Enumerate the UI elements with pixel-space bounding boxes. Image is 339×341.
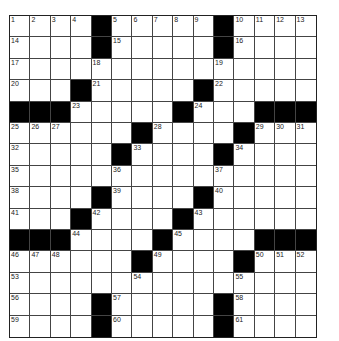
grid-cell[interactable]: [296, 144, 316, 165]
grid-cell[interactable]: [255, 166, 275, 187]
grid-cell[interactable]: [112, 251, 132, 272]
grid-cell[interactable]: [30, 37, 50, 58]
grid-cell[interactable]: [30, 59, 50, 80]
grid-cell[interactable]: [173, 144, 193, 165]
grid-cell[interactable]: [173, 294, 193, 315]
grid-cell[interactable]: [255, 316, 275, 337]
grid-cell[interactable]: [255, 209, 275, 230]
grid-cell[interactable]: [51, 209, 71, 230]
grid-cell[interactable]: [71, 273, 91, 294]
grid-cell[interactable]: 22: [214, 80, 234, 101]
grid-cell[interactable]: [194, 144, 214, 165]
grid-cell[interactable]: [92, 251, 112, 272]
grid-cell[interactable]: [51, 80, 71, 101]
grid-cell[interactable]: [132, 187, 152, 208]
grid-cell[interactable]: 16: [234, 37, 254, 58]
grid-cell[interactable]: 51: [275, 251, 295, 272]
grid-cell[interactable]: 56: [10, 294, 30, 315]
grid-cell[interactable]: 37: [214, 166, 234, 187]
grid-cell[interactable]: 46: [10, 251, 30, 272]
grid-cell[interactable]: [214, 102, 234, 123]
grid-cell[interactable]: [92, 144, 112, 165]
grid-cell[interactable]: [255, 144, 275, 165]
grid-cell[interactable]: [194, 273, 214, 294]
grid-cell[interactable]: 2: [30, 16, 50, 37]
grid-cell[interactable]: 49: [153, 251, 173, 272]
grid-cell[interactable]: [255, 273, 275, 294]
grid-cell[interactable]: [132, 59, 152, 80]
grid-cell[interactable]: [153, 59, 173, 80]
grid-cell[interactable]: [112, 80, 132, 101]
grid-cell[interactable]: 25: [10, 123, 30, 144]
grid-cell[interactable]: 20: [10, 80, 30, 101]
grid-cell[interactable]: 3: [51, 16, 71, 37]
grid-cell[interactable]: [275, 294, 295, 315]
grid-cell[interactable]: [112, 102, 132, 123]
grid-cell[interactable]: [173, 80, 193, 101]
grid-cell[interactable]: 32: [10, 144, 30, 165]
grid-cell[interactable]: [51, 273, 71, 294]
grid-cell[interactable]: [153, 273, 173, 294]
grid-cell[interactable]: [234, 102, 254, 123]
grid-cell[interactable]: [92, 273, 112, 294]
grid-cell[interactable]: [71, 59, 91, 80]
grid-cell[interactable]: [214, 273, 234, 294]
grid-cell[interactable]: [132, 316, 152, 337]
grid-cell[interactable]: [194, 59, 214, 80]
grid-cell[interactable]: 27: [51, 123, 71, 144]
grid-cell[interactable]: [112, 273, 132, 294]
grid-cell[interactable]: 9: [194, 16, 214, 37]
grid-cell[interactable]: [153, 102, 173, 123]
grid-cell[interactable]: 55: [234, 273, 254, 294]
grid-cell[interactable]: [92, 230, 112, 251]
grid-cell[interactable]: 39: [112, 187, 132, 208]
grid-cell[interactable]: [92, 102, 112, 123]
grid-cell[interactable]: 35: [10, 166, 30, 187]
grid-cell[interactable]: [194, 316, 214, 337]
grid-cell[interactable]: [71, 187, 91, 208]
grid-cell[interactable]: 1: [10, 16, 30, 37]
grid-cell[interactable]: [51, 316, 71, 337]
grid-cell[interactable]: 15: [112, 37, 132, 58]
grid-cell[interactable]: [71, 37, 91, 58]
grid-cell[interactable]: 59: [10, 316, 30, 337]
grid-cell[interactable]: 29: [255, 123, 275, 144]
grid-cell[interactable]: 50: [255, 251, 275, 272]
grid-cell[interactable]: [30, 80, 50, 101]
grid-cell[interactable]: [296, 166, 316, 187]
grid-cell[interactable]: [255, 187, 275, 208]
grid-cell[interactable]: 30: [275, 123, 295, 144]
grid-cell[interactable]: 44: [71, 230, 91, 251]
grid-cell[interactable]: [112, 209, 132, 230]
grid-cell[interactable]: [255, 80, 275, 101]
grid-cell[interactable]: [92, 166, 112, 187]
grid-cell[interactable]: [255, 37, 275, 58]
grid-cell[interactable]: 45: [173, 230, 193, 251]
grid-cell[interactable]: [30, 316, 50, 337]
grid-cell[interactable]: [153, 37, 173, 58]
grid-cell[interactable]: [71, 316, 91, 337]
grid-cell[interactable]: [51, 294, 71, 315]
grid-cell[interactable]: [71, 166, 91, 187]
grid-cell[interactable]: [275, 37, 295, 58]
grid-cell[interactable]: [194, 123, 214, 144]
grid-cell[interactable]: [214, 251, 234, 272]
grid-cell[interactable]: [153, 144, 173, 165]
grid-cell[interactable]: 43: [194, 209, 214, 230]
grid-cell[interactable]: 53: [10, 273, 30, 294]
grid-cell[interactable]: [30, 294, 50, 315]
grid-cell[interactable]: [132, 102, 152, 123]
grid-cell[interactable]: [71, 294, 91, 315]
grid-cell[interactable]: 60: [112, 316, 132, 337]
grid-cell[interactable]: 12: [275, 16, 295, 37]
grid-cell[interactable]: [51, 187, 71, 208]
grid-cell[interactable]: [112, 123, 132, 144]
grid-cell[interactable]: [214, 230, 234, 251]
grid-cell[interactable]: [173, 37, 193, 58]
grid-cell[interactable]: 33: [132, 144, 152, 165]
grid-cell[interactable]: [234, 80, 254, 101]
grid-cell[interactable]: [132, 37, 152, 58]
grid-cell[interactable]: [92, 123, 112, 144]
grid-cell[interactable]: 36: [112, 166, 132, 187]
grid-cell[interactable]: 61: [234, 316, 254, 337]
